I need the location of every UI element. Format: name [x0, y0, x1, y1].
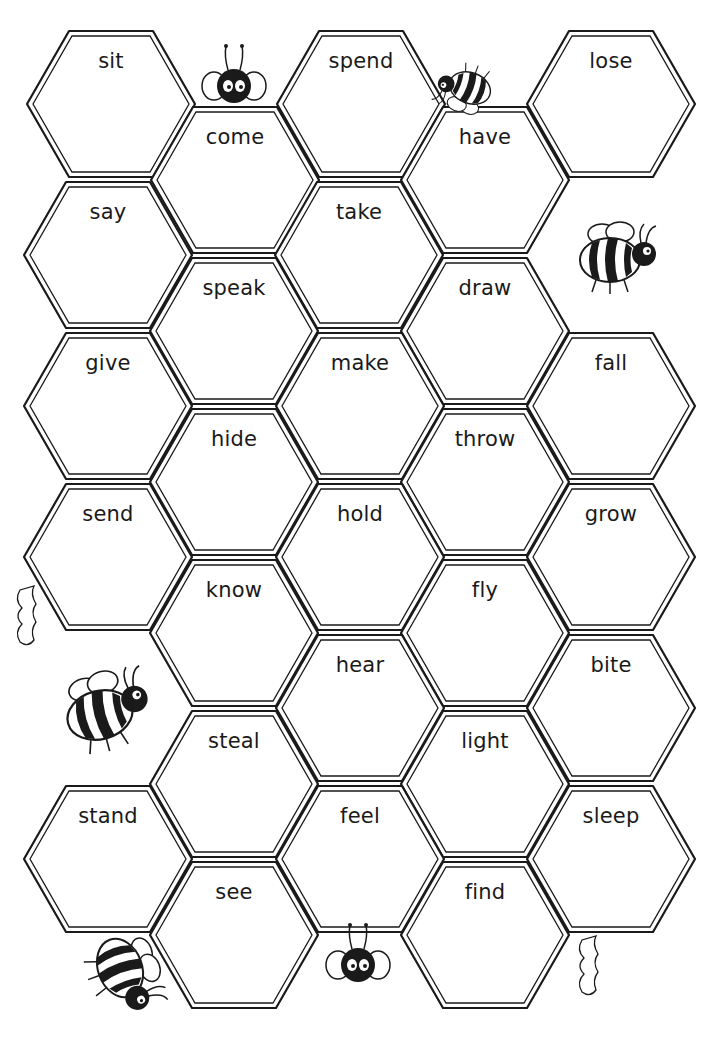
verb-label: find [465, 880, 506, 904]
verb-label: lose [589, 49, 632, 73]
verb-label: bite [590, 653, 631, 677]
verb-label: fly [472, 578, 498, 602]
verb-label: throw [455, 427, 516, 451]
verb-label: sit [98, 49, 124, 73]
verb-label: hold [337, 502, 383, 526]
verb-label: sleep [583, 804, 640, 828]
verb-label: have [459, 125, 511, 149]
verb-label: fall [595, 351, 628, 375]
verb-label: send [82, 502, 133, 526]
verb-label: light [461, 729, 509, 753]
verb-label: make [331, 351, 389, 375]
verb-label: hide [211, 427, 257, 451]
verb-label: steal [208, 729, 260, 753]
verb-label: speak [202, 276, 265, 300]
verb-label: grow [585, 502, 637, 526]
verb-label: see [215, 880, 252, 904]
verb-label: stand [78, 804, 138, 828]
verb-label: say [90, 200, 127, 224]
verb-label: take [336, 200, 382, 224]
verb-label: hear [336, 653, 385, 677]
verb-label: feel [340, 804, 380, 828]
verb-label: give [85, 351, 130, 375]
verb-label: draw [459, 276, 512, 300]
verb-label: come [206, 125, 265, 149]
honeycomb-board: sitspendlosecomehavesaytakespeakdrawgive… [0, 0, 725, 1038]
verb-label: spend [329, 49, 394, 73]
verb-label: know [206, 578, 262, 602]
